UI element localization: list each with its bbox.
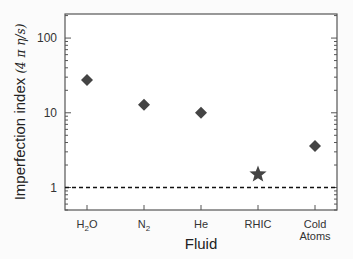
x-tick-label: RHIC: [245, 218, 272, 230]
x-tick-label-line: Cold: [304, 218, 327, 230]
y-axis-title: Imperfection index (4 π η/s): [11, 23, 28, 200]
x-tick-label: N2: [138, 218, 151, 233]
y-tick-label: 10: [44, 106, 58, 120]
x-tick-label-line: Atoms: [299, 230, 331, 242]
x-axis-title: Fluid: [185, 235, 218, 252]
x-tick-label: He: [194, 218, 208, 230]
y-axis-title-main: Imperfection index: [11, 77, 28, 200]
y-tick-label: 100: [37, 31, 57, 45]
x-tick-label: H2O: [77, 218, 98, 233]
chart: 110100 H2ON2HeRHICColdAtoms Fluid Imperf…: [0, 0, 353, 259]
x-tick-label: ColdAtoms: [299, 218, 331, 242]
svg-text:Imperfection index (4 π: Imperfection index (4 π η/s): [11, 23, 28, 200]
y-tick-label: 1: [50, 181, 57, 195]
y-axis-title-units: (4 π η/s): [14, 23, 28, 73]
